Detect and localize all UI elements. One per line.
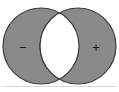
plus-sign: + [92, 40, 100, 55]
minus-sign: − [19, 40, 27, 55]
diagram-canvas: − + [0, 0, 119, 92]
venn-diagram-svg: − + [0, 0, 119, 92]
